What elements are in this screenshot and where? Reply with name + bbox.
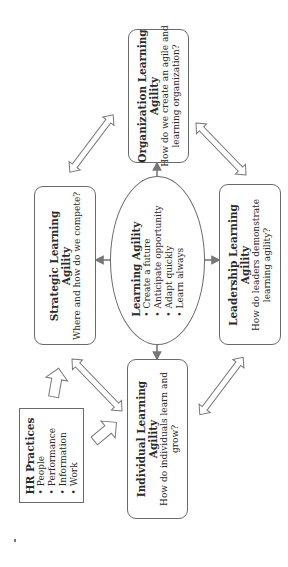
bullet-item: Information xyxy=(58,417,69,494)
learning-agility-bullets: Create a future Anticipate opportunity A… xyxy=(142,205,186,316)
individual-title-line1: Individual Learning xyxy=(135,372,147,506)
strategic-title-line1: Strategic Learning xyxy=(48,191,60,339)
leadership-question-line2: learning agility? xyxy=(262,199,273,331)
organization-question-line1: How do we create an agile and xyxy=(160,25,171,167)
bullet-item: Work xyxy=(69,417,80,494)
strategic-learning-agility-box: Strategic Learning Agility Where and how… xyxy=(34,186,96,345)
individual-question-line2: grow? xyxy=(170,372,181,506)
strategic-question-line1: Where and how do we compete? xyxy=(72,191,83,339)
block-arrow-hr-to-strategic xyxy=(43,366,70,398)
organization-title-line1: Organization Learning xyxy=(136,25,148,167)
double-arrow-organization-leadership xyxy=(191,118,251,180)
double-arrow-strategic-organization xyxy=(64,111,119,177)
organization-question-line2: learning organization? xyxy=(171,25,182,167)
block-arrow-hr-to-individual xyxy=(87,414,123,449)
double-arrow-individual-leadership xyxy=(194,353,249,419)
organization-title-line2: Agility xyxy=(148,25,160,167)
learning-agility-ellipse: Learning Agility Create a future Anticip… xyxy=(110,176,205,345)
hr-practices-bullets: People Performance Information Work xyxy=(36,417,80,494)
bullet-item: Learn always xyxy=(175,205,186,316)
bullet-item: People xyxy=(36,417,47,494)
strategic-text: Strategic Learning Agility Where and how… xyxy=(48,191,83,339)
individual-text: Individual Learning Agility How do indiv… xyxy=(135,372,181,506)
bullet-item: Create a future xyxy=(142,205,153,316)
leadership-learning-agility-box: Leadership Learning Agility How do leade… xyxy=(219,184,281,345)
learning-agility-text: Learning Agility Create a future Anticip… xyxy=(130,205,186,316)
leadership-title-line2: Agility xyxy=(239,199,251,331)
leadership-text: Leadership Learning Agility How do leade… xyxy=(227,199,273,331)
double-arrow-strategic-individual xyxy=(67,354,127,416)
organization-text: Organization Learning Agility How do we … xyxy=(136,25,182,167)
bullet-item: Performance xyxy=(47,417,58,494)
individual-title-line2: Agility xyxy=(147,372,159,506)
learning-agility-title: Learning Agility xyxy=(130,205,142,316)
strategic-title-line2: Agility xyxy=(60,191,72,339)
hr-practices-title: HR Practices xyxy=(24,417,36,494)
hr-practices-text: HR Practices People Performance Informat… xyxy=(24,417,80,494)
leadership-question-line1: How do leaders demonstrate xyxy=(251,199,262,331)
organization-learning-agility-box: Organization Learning Agility How do we … xyxy=(128,29,189,163)
individual-question-line1: How do individuals learn and xyxy=(159,372,170,506)
leadership-title-line1: Leadership Learning xyxy=(227,199,239,331)
hr-practices-box: HR Practices People Performance Informat… xyxy=(19,408,84,503)
bullet-item: Adapt quickly xyxy=(164,205,175,316)
individual-learning-agility-box: Individual Learning Agility How do indiv… xyxy=(127,359,188,519)
stray-mark xyxy=(14,539,16,542)
bullet-item: Anticipate opportunity xyxy=(153,205,164,316)
